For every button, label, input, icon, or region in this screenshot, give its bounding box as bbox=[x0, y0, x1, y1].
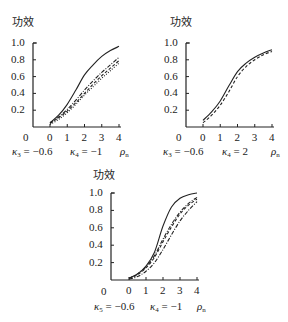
origin-label: 0 bbox=[101, 286, 107, 297]
kappa4-value: = −1 bbox=[162, 300, 183, 312]
x-tick-label: 4 bbox=[194, 285, 200, 296]
series-line-dash-dot-1 bbox=[129, 197, 197, 278]
kappa5-label: κ5 = −0.6 bbox=[94, 301, 134, 314]
kappa5-value: = −0.6 bbox=[106, 300, 135, 312]
y-tick-label: 1.0 bbox=[89, 187, 103, 198]
chart-panel-3: 功效 0.20.40.60.81.0 01234 0 κ5 = −0.6 κ4 … bbox=[0, 0, 288, 322]
plot-area bbox=[0, 0, 288, 322]
y-tick-label: 0.6 bbox=[89, 222, 103, 233]
x-tick-label: 2 bbox=[160, 285, 166, 296]
x-tick-label: 0 bbox=[126, 285, 132, 296]
x-tick-label: 1 bbox=[143, 285, 149, 296]
kappa-subscript: 4 bbox=[155, 306, 159, 314]
series-line-solid bbox=[129, 193, 197, 278]
kappa-subscript: 5 bbox=[99, 306, 103, 314]
y-tick-label: 0.4 bbox=[89, 239, 103, 250]
x-tick-label: 3 bbox=[177, 285, 183, 296]
series-line-dash-dot-2 bbox=[129, 202, 197, 279]
rho-subscript: n bbox=[202, 306, 206, 314]
x-axis-title: ρn bbox=[197, 301, 206, 314]
y-tick-label: 0.2 bbox=[89, 257, 103, 268]
y-tick-label: 0.8 bbox=[89, 204, 103, 215]
kappa4-label: κ4 = −1 bbox=[150, 301, 182, 314]
